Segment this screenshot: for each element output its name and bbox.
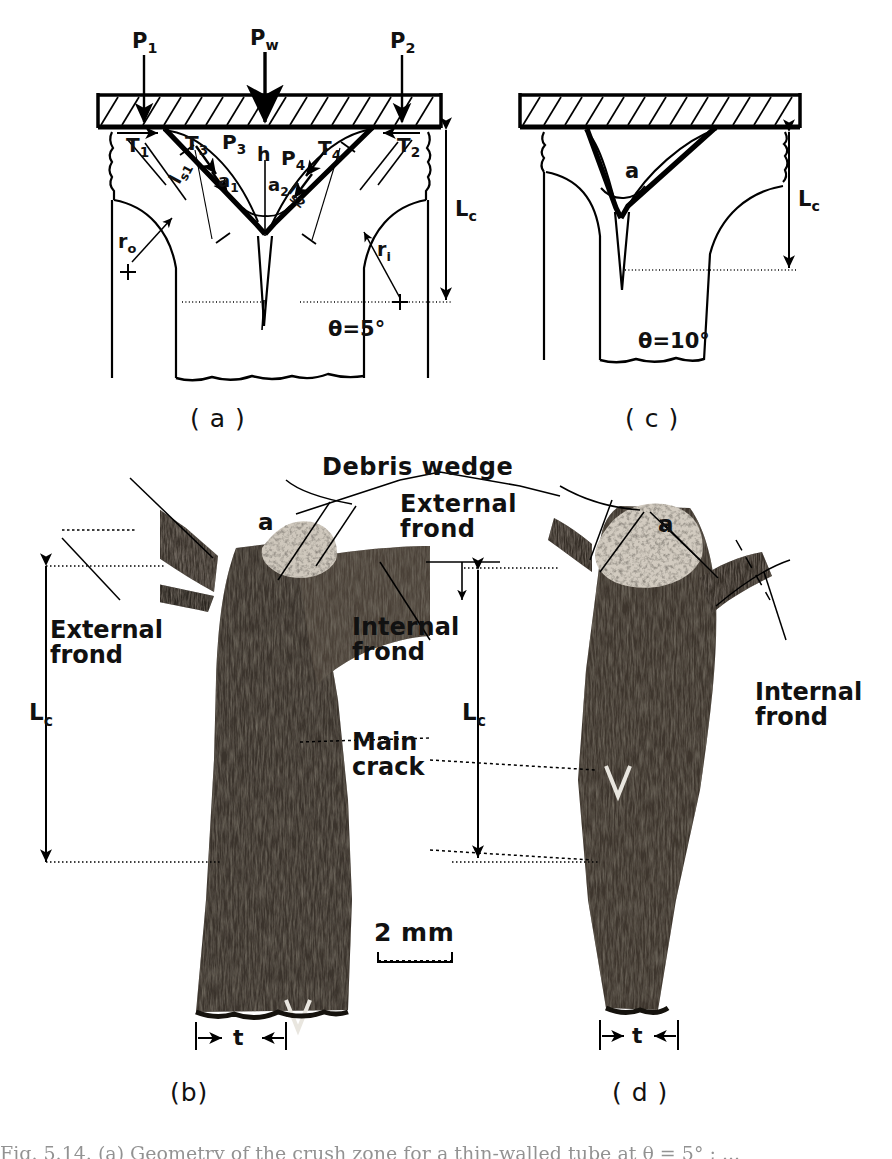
- figure-canvas: [0, 0, 892, 1159]
- label-external-frond-b: External frond: [50, 618, 163, 668]
- label-P2: P2: [390, 30, 415, 56]
- load-arrows-a: [144, 52, 402, 122]
- crack-v-c: [615, 212, 629, 290]
- label-P1: P1: [132, 30, 157, 56]
- figure-root: P1 Pw P2 T1 T2 T3 T4 P3 P4 h a1 a2 ls1 l…: [0, 0, 892, 1159]
- caption-b: (b): [170, 1078, 208, 1107]
- label-theta-c: θ=10°: [638, 330, 710, 352]
- label-P3: P3: [222, 132, 246, 156]
- label-Lc-c: Lc: [798, 188, 820, 214]
- panel-a-diagram: [98, 52, 452, 380]
- label-internal-frond-d: Internal frond: [755, 680, 862, 730]
- tube-wall-right-a: [364, 132, 431, 378]
- label-ri: ri: [377, 240, 391, 263]
- label-external-frond-center: External frond: [400, 492, 517, 542]
- label-T1: T1: [126, 135, 149, 159]
- dimension-lc-b: [46, 566, 220, 862]
- platen-c: [520, 93, 800, 128]
- label-Lc-d: Lc: [462, 700, 486, 729]
- label-ro: ro: [118, 232, 136, 255]
- label-h: h: [257, 145, 271, 165]
- panel-d-photo: [548, 503, 772, 1012]
- label-theta-a: θ=5°: [328, 318, 385, 340]
- label-Lc-a: Lc: [455, 198, 477, 224]
- label-t-d: t: [632, 1024, 643, 1047]
- label-angle-a-b: a: [258, 510, 274, 534]
- platen-a: [98, 93, 441, 128]
- tube-bottom-ragged-c: [600, 358, 704, 362]
- label-Lc-b: Lc: [29, 700, 53, 729]
- frond-lines-c: [585, 128, 717, 218]
- bottom-caption-clipped: Fig. 5.14. (a) Geometry of the crush zon…: [0, 1142, 892, 1159]
- caption-a: ( a ): [190, 404, 246, 433]
- tube-wall-right-c: [704, 132, 788, 360]
- scale-bar: [378, 952, 452, 962]
- label-internal-frond-b: Internal frond: [352, 615, 459, 665]
- tube-wall-left-c: [542, 132, 601, 360]
- label-Pw: Pw: [250, 27, 279, 53]
- panel-c-diagram: [520, 93, 800, 362]
- tube-bottom-ragged-a: [176, 374, 364, 380]
- label-T3: T3: [185, 133, 208, 157]
- label-angle-a-d: a: [658, 512, 674, 536]
- label-main-crack-b: Main crack: [352, 730, 424, 780]
- label-a1: a1: [218, 172, 239, 194]
- label-t-b: t: [233, 1026, 244, 1049]
- caption-d: ( d ): [612, 1078, 668, 1107]
- label-P4: P4: [281, 148, 305, 172]
- label-T2: T2: [397, 135, 420, 159]
- label-a-c: a: [625, 160, 639, 182]
- caption-c: ( c ): [625, 404, 679, 433]
- label-T4: T4: [318, 138, 341, 162]
- label-debris-wedge: Debris wedge: [322, 455, 513, 480]
- label-scale-bar: 2 mm: [374, 920, 454, 946]
